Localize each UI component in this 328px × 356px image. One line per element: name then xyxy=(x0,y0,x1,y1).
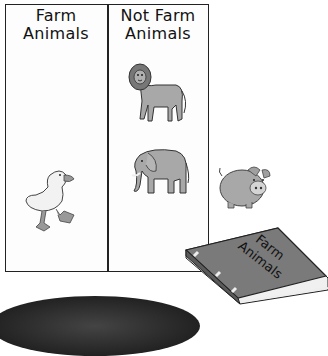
pig-icon[interactable] xyxy=(216,162,274,212)
farm-animals-book[interactable]: Farm Animals xyxy=(180,222,328,306)
elephant-icon[interactable] xyxy=(124,145,194,197)
header-line: Animals xyxy=(6,25,106,43)
header-line: Animals xyxy=(108,25,208,43)
header-not-farm-animals: Not Farm Animals xyxy=(108,7,208,43)
lion-icon[interactable] xyxy=(126,61,188,127)
header-farm-animals: Farm Animals xyxy=(6,7,106,43)
header-line: Not Farm xyxy=(108,7,208,25)
header-line: Farm xyxy=(6,7,106,25)
column-divider xyxy=(107,5,109,271)
sorting-chart: Farm Animals Not Farm Animals xyxy=(5,4,209,272)
dark-arc-decoration xyxy=(0,296,200,356)
duck-icon[interactable] xyxy=(20,165,90,237)
